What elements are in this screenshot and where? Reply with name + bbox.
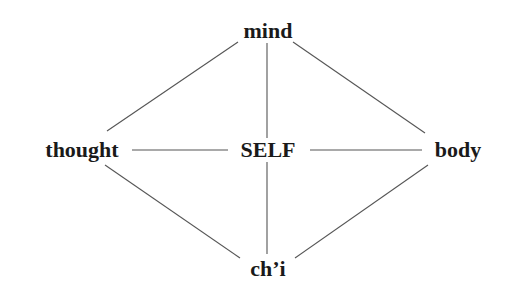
edge-mind-body	[293, 42, 425, 133]
edge-thought-chi	[105, 165, 240, 258]
edge-body-chi	[295, 165, 428, 258]
node-chi: ch’i	[250, 256, 285, 281]
node-thought: thought	[45, 137, 119, 162]
self-diagram: mind thought SELF body ch’i	[0, 0, 512, 300]
node-mind: mind	[244, 18, 293, 43]
node-body: body	[435, 137, 481, 162]
edge-mind-thought	[107, 42, 238, 131]
node-self: SELF	[240, 137, 295, 162]
